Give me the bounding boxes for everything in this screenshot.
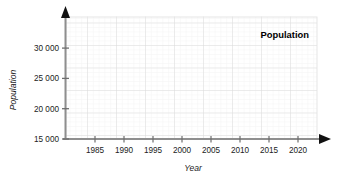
y-axis-title: Population <box>8 69 18 110</box>
y-tick-label-15000: 15 000 <box>34 135 59 144</box>
population-year-chart: 15 000 20 000 25 000 30 000 1985 1990 19… <box>0 0 341 177</box>
x-tick-label-1990: 1990 <box>115 146 134 155</box>
y-tick-label-25000: 25 000 <box>34 74 59 83</box>
x-tick-label-2020: 2020 <box>289 146 308 155</box>
plot-title: Population <box>261 29 310 40</box>
x-tick-label-1995: 1995 <box>144 146 163 155</box>
y-tick-label-30000: 30 000 <box>34 44 59 53</box>
x-tick-label-2000: 2000 <box>173 146 192 155</box>
x-tick-label-2015: 2015 <box>260 146 279 155</box>
x-tick-label-1985: 1985 <box>86 146 105 155</box>
x-axis-title: Year <box>184 163 203 173</box>
chart-canvas: 15 000 20 000 25 000 30 000 1985 1990 19… <box>0 0 341 177</box>
y-tick-label-20000: 20 000 <box>34 105 59 114</box>
x-tick-label-2010: 2010 <box>231 146 250 155</box>
x-tick-label-2005: 2005 <box>202 146 221 155</box>
